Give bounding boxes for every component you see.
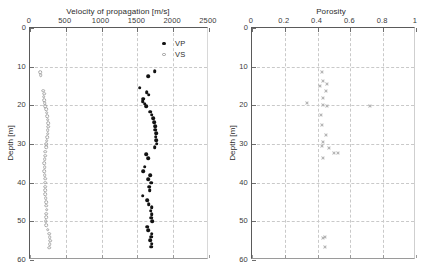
porosity-x-axis-title: Porosity: [316, 7, 346, 16]
y-tick-label: 20: [13, 100, 26, 109]
data-point-porosity: [323, 245, 327, 249]
x-tick-label: 1: [413, 16, 417, 25]
x-tick-label: 0: [27, 16, 31, 25]
gridline-vertical: [383, 28, 384, 258]
gridline-vertical: [173, 28, 174, 258]
data-point-vs: [44, 146, 48, 150]
legend-label-vs: VS: [170, 50, 186, 59]
x-tick: [383, 28, 384, 32]
data-point-porosity: [319, 113, 323, 117]
y-tick: [30, 183, 34, 184]
x-tick: [102, 28, 103, 32]
gridline-vertical: [102, 28, 103, 258]
data-point-porosity: [323, 235, 327, 239]
y-tick: [252, 144, 256, 145]
x-tick-bottom: [209, 255, 210, 258]
data-point-porosity: [320, 144, 324, 148]
y-tick-label: 40: [13, 177, 26, 186]
gridline-horizontal: [252, 183, 414, 184]
y-tick: [30, 28, 34, 29]
x-tick-label: 0.2: [278, 16, 289, 25]
data-point-porosity: [318, 84, 322, 88]
x-tick-label: 0.6: [344, 16, 355, 25]
x-tick-bottom: [416, 255, 417, 258]
y-tick: [30, 260, 34, 261]
gridline-vertical: [350, 28, 351, 258]
y-tick: [252, 183, 256, 184]
y-tick-label: 30: [235, 139, 248, 148]
porosity-panel: Porosity Depth [m] 00.20.40.60.810102030…: [215, 0, 430, 274]
data-point-porosity: [321, 156, 325, 160]
y-tick: [252, 221, 256, 222]
y-tick-label: 10: [235, 61, 248, 70]
x-tick: [137, 28, 138, 32]
filled-circle-icon: [158, 42, 170, 46]
y-tick-label: 0: [13, 23, 26, 32]
y-tick-label: 40: [235, 177, 248, 186]
y-tick: [30, 144, 34, 145]
figure-root: Velocity of propagation [m/s] Depth [m] …: [0, 0, 430, 274]
data-point-porosity: [327, 146, 331, 150]
data-point-vp: [149, 245, 153, 249]
velocity-panel: Velocity of propagation [m/s] Depth [m] …: [0, 0, 215, 274]
x-tick-label: 0.8: [377, 16, 388, 25]
data-point-porosity: [305, 101, 309, 105]
x-tick-label: 0.4: [311, 16, 322, 25]
data-point-vp: [148, 189, 152, 193]
y-tick-label: 50: [13, 216, 26, 225]
y-tick-label: 60: [13, 255, 26, 264]
data-point-vp: [146, 156, 150, 160]
data-point-porosity: [368, 104, 372, 108]
data-point-vs: [44, 223, 48, 227]
x-tick: [350, 28, 351, 32]
gridline-horizontal: [252, 67, 414, 68]
data-point-vp: [143, 165, 147, 169]
x-tick-label: 0: [249, 16, 253, 25]
x-tick-bottom: [383, 255, 384, 258]
gridline-horizontal: [252, 105, 414, 106]
y-tick-label: 10: [13, 61, 26, 70]
x-tick-bottom: [137, 255, 138, 258]
x-tick: [66, 28, 67, 32]
gridline-horizontal: [30, 105, 207, 106]
y-tick-label: 50: [235, 216, 248, 225]
x-tick-label: 2000: [163, 16, 181, 25]
y-tick-label: 0: [235, 23, 248, 32]
data-point-porosity: [324, 133, 328, 137]
data-point-porosity: [325, 82, 329, 86]
data-point-vs: [39, 73, 43, 77]
data-point-porosity: [320, 123, 324, 127]
gridline-vertical: [285, 28, 286, 258]
velocity-legend: VP VS: [158, 38, 186, 60]
data-point-porosity: [320, 70, 324, 74]
y-tick-label: 30: [13, 139, 26, 148]
x-tick-label: 1000: [92, 16, 110, 25]
velocity-axes: [29, 27, 208, 259]
gridline-vertical: [137, 28, 138, 258]
data-point-vp: [142, 169, 146, 173]
y-tick: [30, 105, 34, 106]
data-point-porosity: [336, 151, 340, 155]
gridline-horizontal: [252, 221, 414, 222]
legend-entry-vs: VS: [158, 49, 186, 60]
x-tick-bottom: [173, 255, 174, 258]
gridline-horizontal: [30, 144, 207, 145]
y-tick: [30, 67, 34, 68]
y-tick-label: 60: [235, 255, 248, 264]
x-tick: [173, 28, 174, 32]
figure-caption: [8, 266, 248, 274]
y-tick: [252, 28, 256, 29]
porosity-axes: [251, 27, 415, 259]
y-tick-label: 20: [235, 100, 248, 109]
x-tick: [209, 28, 210, 32]
x-tick-bottom: [285, 255, 286, 258]
data-point-vp: [141, 194, 145, 198]
data-point-vp: [153, 70, 157, 74]
y-tick: [252, 67, 256, 68]
x-tick: [318, 28, 319, 32]
x-tick-bottom: [252, 255, 253, 258]
data-point-vp: [144, 105, 148, 109]
gridline-vertical: [66, 28, 67, 258]
y-tick: [252, 105, 256, 106]
x-tick-bottom: [318, 255, 319, 258]
